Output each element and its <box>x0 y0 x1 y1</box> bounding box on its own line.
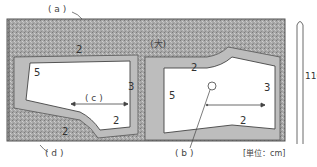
width-dimension <box>297 22 303 145</box>
seam-left-curve: 2 <box>62 127 68 137</box>
right-pattern-piece <box>164 57 275 133</box>
seam-left-top: 2 <box>76 45 82 55</box>
seam-left-bottom: 2 <box>113 116 119 126</box>
fabric-label: (大) <box>150 40 166 49</box>
seam-left-right: 3 <box>128 82 134 92</box>
seam-right-bottom: 2 <box>240 116 246 126</box>
seam-right-top: 2 <box>191 63 197 73</box>
unit-note: [単位：cm] <box>243 150 285 158</box>
callout-b: ( b ) <box>175 149 193 158</box>
callout-d: ( d ) <box>45 149 63 158</box>
callout-a: ( a ) <box>48 5 66 14</box>
seam-left-left: 5 <box>34 68 40 78</box>
seam-right-right: 3 <box>264 83 270 93</box>
width-value: 110 <box>305 72 317 81</box>
callout-c: ( c ) <box>85 94 103 103</box>
seam-right-left: 5 <box>169 91 175 101</box>
